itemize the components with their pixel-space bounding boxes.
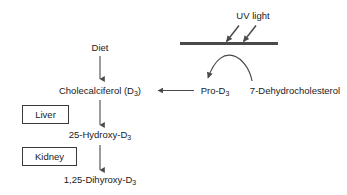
conversion-arc bbox=[208, 55, 252, 81]
cholecalciferol-subscript: 3 bbox=[134, 90, 138, 97]
pro-d3-label: Pro-D3 bbox=[201, 86, 230, 96]
liver-box: Liver bbox=[22, 105, 69, 124]
cholecalciferol-tail: ) bbox=[138, 85, 141, 96]
hydroxy-d3-subscript: 3 bbox=[127, 134, 131, 141]
vitamin-d-pathway-diagram: UV light Diet Cholecalciferol (D3) Pro-D… bbox=[0, 0, 347, 195]
kidney-label: Kidney bbox=[35, 152, 64, 162]
liver-label: Liver bbox=[35, 110, 56, 120]
pro-d3-text: Pro-D bbox=[201, 85, 226, 96]
cholecalciferol-label: Cholecalciferol (D3) bbox=[59, 86, 141, 96]
diet-label: Diet bbox=[92, 43, 109, 53]
hydroxy-d3-text: 25-Hydroxy-D bbox=[69, 129, 128, 140]
uv-ray-left bbox=[227, 26, 240, 42]
dihyroxy-d3-text: 1,25-Dihyroxy-D bbox=[64, 174, 133, 185]
kidney-box: Kidney bbox=[22, 147, 77, 166]
uv-light-label: UV light bbox=[236, 11, 269, 21]
hydroxy-d3-label: 25-Hydroxy-D3 bbox=[69, 130, 132, 140]
cholecalciferol-text: Cholecalciferol (D bbox=[59, 85, 134, 96]
dihyroxy-d3-label: 1,25-Dihyroxy-D3 bbox=[64, 175, 137, 185]
dihyroxy-d3-subscript: 3 bbox=[132, 179, 136, 186]
pro-d3-subscript: 3 bbox=[225, 90, 229, 97]
dehydrocholesterol-label: 7-Dehydrocholesterol bbox=[250, 86, 340, 96]
uv-ray-right bbox=[244, 26, 257, 42]
